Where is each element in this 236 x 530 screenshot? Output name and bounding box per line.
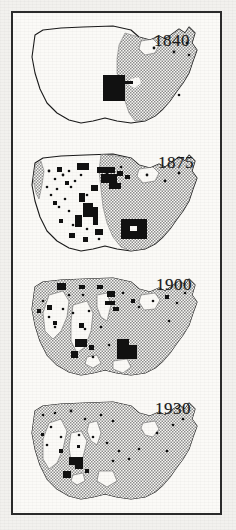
year-label-1900: 1900 bbox=[156, 275, 192, 295]
map-panel-1875: 1875 bbox=[13, 141, 220, 265]
year-label-1875: 1875 bbox=[158, 153, 194, 173]
dense-block-core-1875 bbox=[130, 226, 137, 231]
map-panel-1840: 1840 bbox=[13, 17, 220, 141]
map-panel-1900: 1900 bbox=[13, 265, 220, 389]
year-label-1930: 1930 bbox=[155, 399, 191, 419]
map-panel-1930: 1930 bbox=[13, 389, 220, 513]
figure-plate: 1840 bbox=[11, 11, 222, 515]
year-label-1840: 1840 bbox=[154, 31, 190, 51]
